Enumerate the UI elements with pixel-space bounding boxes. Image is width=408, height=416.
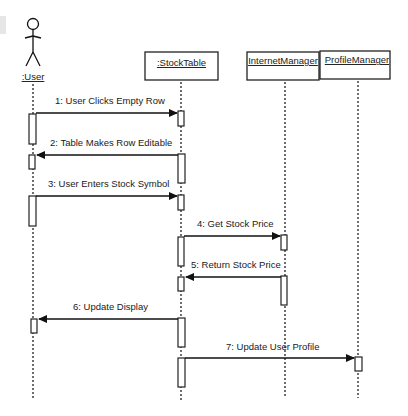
message-1: 1: User Clicks Empty Row (36, 95, 177, 113)
message-3: 3: User Enters Stock Symbol (36, 178, 177, 196)
stick-figure-icon (25, 19, 41, 67)
participant-label-user: :User (22, 71, 45, 82)
participant-internetmanager: InternetManager (247, 52, 319, 80)
message-label-4: 4: Get Stock Price (197, 218, 274, 229)
message-6: 6: Update Display (39, 301, 178, 319)
message-2: 2: Table Makes Row Editable (37, 137, 178, 155)
participant-profilemanager: ProfileManager (320, 51, 390, 79)
message-label-6: 6: Update Display (73, 301, 148, 312)
actor-user: :User (22, 19, 45, 83)
participant-label-stocktable: :StockTable (157, 57, 206, 68)
sequence-diagram: :User :StockTable InternetManager Profil… (0, 0, 408, 416)
message-label-5: 5: Return Stock Price (191, 259, 281, 270)
participant-label-profilemanager: ProfileManager (325, 54, 389, 65)
message-label-7: 7: Update User Profile (226, 341, 319, 352)
message-label-2: 2: Table Makes Row Editable (50, 137, 172, 148)
message-label-3: 3: User Enters Stock Symbol (48, 178, 169, 189)
message-5: 5: Return Stock Price (186, 259, 281, 277)
participant-label-internetmanager: InternetManager (248, 55, 318, 66)
message-4: 4: Get Stock Price (184, 218, 280, 236)
message-label-1: 1: User Clicks Empty Row (55, 95, 165, 106)
message-7: 7: Update User Profile (185, 341, 354, 358)
participant-stocktable: :StockTable (145, 52, 218, 80)
